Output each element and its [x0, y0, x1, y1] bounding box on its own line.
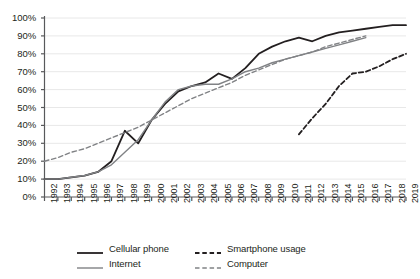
x-axis-tick-label: 2008 — [263, 184, 273, 203]
x-axis-tick-label: 2001 — [169, 184, 179, 203]
x-axis-tick-label: 1996 — [102, 184, 112, 203]
legend-swatch-dashed-black-icon — [195, 244, 221, 254]
y-axis-tick-label: 20% — [2, 155, 36, 166]
x-axis-tick-label: 2011 — [303, 184, 313, 203]
chart-legend: Cellular phone Smartphone usage Internet… — [0, 241, 412, 271]
y-axis-tick-label: 100% — [2, 12, 36, 23]
x-axis-tick-label: 2007 — [249, 184, 259, 203]
legend-item-internet: Internet — [77, 258, 195, 269]
x-axis-tick-label: 1995 — [89, 184, 99, 203]
y-axis-tick-label: 40% — [2, 119, 36, 130]
legend-item-computer: Computer — [195, 258, 335, 269]
legend-label: Internet — [109, 258, 140, 269]
x-axis-tick-label: 2005 — [223, 184, 233, 203]
legend-label: Cellular phone — [109, 243, 169, 254]
series-line-internet — [45, 38, 366, 179]
legend-item-smartphone-usage: Smartphone usage — [195, 243, 335, 254]
x-axis-tick-label: 1992 — [49, 184, 59, 203]
x-axis-tick-label: 1993 — [62, 184, 72, 203]
legend-row-1: Cellular phone Smartphone usage — [0, 241, 412, 256]
legend-label: Smartphone usage — [227, 243, 306, 254]
y-axis-tick-label: 80% — [2, 48, 36, 59]
y-axis-tick-label: 70% — [2, 66, 36, 77]
x-axis-tick-label: 2017 — [383, 184, 393, 203]
legend-item-cellular-phone: Cellular phone — [77, 243, 195, 254]
x-axis-tick-label: 2018 — [397, 184, 407, 203]
x-axis-tick-label: 2015 — [356, 184, 366, 203]
x-axis-tick-label: 2000 — [156, 184, 166, 203]
x-axis-tick-label: 1998 — [129, 184, 139, 203]
x-axis-tick-label: 2002 — [182, 184, 192, 203]
y-axis-tick-label: 30% — [2, 137, 36, 148]
series-line-computer — [45, 36, 366, 161]
series-line-smartphone-usage — [299, 54, 406, 135]
x-axis-tick-label: 2016 — [370, 184, 380, 203]
x-axis-tick-label: 2013 — [330, 184, 340, 203]
legend-label: Computer — [227, 258, 268, 269]
legend-row-2: Internet Computer — [0, 256, 412, 271]
x-axis-tick-label: 2010 — [290, 184, 300, 203]
legend-swatch-solid-gray-icon — [77, 259, 103, 269]
x-axis-tick-label: 2006 — [236, 184, 246, 203]
x-axis-tick-label: 2004 — [209, 184, 219, 203]
x-axis-tick-label: 2014 — [343, 184, 353, 203]
x-axis-tick-label: 2003 — [196, 184, 206, 203]
x-axis-tick-label: 1994 — [75, 184, 85, 203]
y-axis-tick-label: 10% — [2, 173, 36, 184]
legend-swatch-dashed-gray-icon — [195, 259, 221, 269]
y-axis-tick-label: 60% — [2, 84, 36, 95]
series-line-cellular-phone — [45, 25, 407, 179]
x-axis-tick-label: 1997 — [115, 184, 125, 203]
x-axis-tick-label: 2012 — [316, 184, 326, 203]
x-axis-tick-label: 2009 — [276, 184, 286, 203]
y-axis-tick-label: 0% — [2, 191, 36, 202]
legend-swatch-solid-black-icon — [77, 244, 103, 254]
y-axis-tick-label: 50% — [2, 102, 36, 113]
x-axis-tick-label: 1999 — [142, 184, 152, 203]
x-axis-tick-label: 2019 — [410, 184, 420, 203]
y-axis-tick-label: 90% — [2, 30, 36, 41]
